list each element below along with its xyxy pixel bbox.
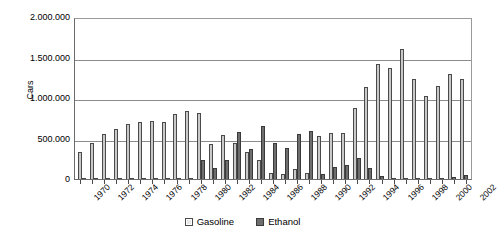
bar-group [112,19,124,179]
bar-ethanol [416,178,420,179]
bar-gasoline [460,79,464,179]
bar-group [160,19,172,179]
bar-ethanol [404,178,408,179]
bar-ethanol [345,165,349,179]
bar-ethanol [189,178,193,179]
bar-group [100,19,112,179]
bar-gasoline [376,64,380,179]
bar-ethanol [297,134,301,179]
bar-ethanol [130,178,134,179]
x-axis-tick-label: 1976 [164,182,184,202]
bar-ethanol [309,131,313,179]
chart-legend: Gasoline Ethanol [0,216,485,227]
bar-ethanol [166,178,170,179]
bar-gasoline [162,122,166,179]
x-axis-tick-label: 1980 [212,182,232,202]
bar-group [172,19,184,179]
bar-gasoline [424,96,428,179]
bar-ethanol [142,178,146,179]
bar-gasoline [138,122,142,179]
x-axis-tick-label: 1984 [260,182,280,202]
x-axis-tick-label: 1978 [188,182,208,202]
x-axis-tick-label: 1994 [381,182,401,202]
bar-ethanol [333,167,337,179]
bar-group [136,19,148,179]
bar-group [255,19,267,179]
bar-gasoline [90,143,94,179]
bar-group [267,19,279,179]
x-axis-tick-label: 1992 [357,182,377,202]
bar-group [327,19,339,179]
legend-swatch-ethanol-icon [256,218,264,226]
y-axis-tick-label: 500.000 [12,135,70,144]
bar-gasoline [388,68,392,179]
x-axis-tick-label: 1988 [309,182,329,202]
x-axis-tick-label: 1996 [405,182,425,202]
legend-item-gasoline: Gasoline [185,216,235,227]
x-axis-tick-labels: 1970197219741976197819801982198419861988… [74,182,472,216]
bar-ethanol [201,160,205,179]
bar-group [363,19,375,179]
x-axis-tick-label: 1974 [140,182,160,202]
bar-ethanol [261,126,265,179]
bar-ethanol [118,178,122,179]
bar-gasoline [78,152,82,179]
bar-group [219,19,231,179]
bar-ethanol [357,158,361,179]
bar-gasoline [412,79,416,179]
bar-group [351,19,363,179]
bar-group [374,19,386,179]
bar-groups [75,19,471,179]
bar-group [422,19,434,179]
bar-group [124,19,136,179]
bar-ethanol [440,178,444,179]
x-axis-tick-label: 2002 [478,182,498,202]
bar-ethanol [273,143,277,179]
bar-ethanol [464,175,468,179]
bar-gasoline [364,87,368,179]
bar-group [183,19,195,179]
bar-group [231,19,243,179]
bar-gasoline [185,111,189,179]
y-axis-tick-labels: 2.000.0001.500.0001.000.000500.0000 [8,0,70,234]
bar-gasoline [102,134,106,179]
x-axis-tick-label: 1986 [285,182,305,202]
bar-group [339,19,351,179]
x-axis-tick-label: 1970 [92,182,112,202]
legend-swatch-gasoline-icon [185,218,193,226]
y-axis-tick-label: 2.000.000 [12,13,70,22]
bar-ethanol [452,177,456,179]
bar-group [434,19,446,179]
legend-label-ethanol: Ethanol [268,216,300,227]
x-axis-tick-label: 1990 [333,182,353,202]
bar-ethanol [154,178,158,179]
bar-group [279,19,291,179]
bar-ethanol [321,174,325,179]
x-axis-tick-label: 2000 [453,182,473,202]
bar-ethanol [368,168,372,179]
bar-gasoline [317,136,321,179]
bar-ethanol [237,132,241,179]
bar-group [410,19,422,179]
bar-group [446,19,458,179]
bar-group [243,19,255,179]
bar-gasoline [400,49,404,179]
x-axis-tick-label: 1982 [236,182,256,202]
bar-group [88,19,100,179]
bar-group [315,19,327,179]
bar-gasoline [436,86,440,179]
x-axis-tick-label: 1998 [429,182,449,202]
bar-gasoline [114,129,118,179]
legend-label-gasoline: Gasoline [197,216,235,227]
bar-group [76,19,88,179]
bar-group [207,19,219,179]
bar-group [195,19,207,179]
bar-ethanol [213,168,217,179]
bar-ethanol [82,178,86,179]
y-axis-tick-label: 0 [12,175,70,184]
bar-ethanol [380,176,384,179]
bar-ethanol [225,160,229,179]
bar-gasoline [126,124,130,179]
bar-gasoline [448,74,452,179]
